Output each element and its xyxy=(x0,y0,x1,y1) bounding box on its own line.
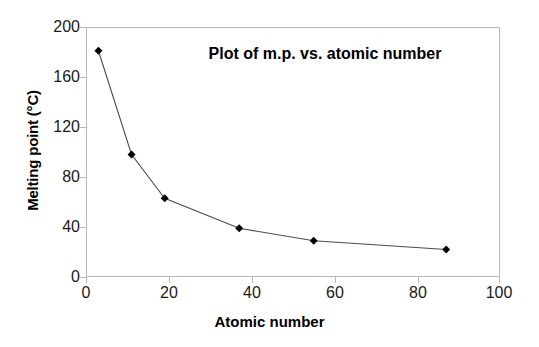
x-tick-label-80: 80 xyxy=(388,285,448,301)
x-axis-tick-labels: 0 20 40 60 80 100 xyxy=(0,285,539,309)
y-tick-label-200: 200 xyxy=(34,19,80,35)
x-tick-mark-20 xyxy=(169,277,170,283)
y-tick-mark-120 xyxy=(80,127,86,128)
x-tick-label-20: 20 xyxy=(139,285,199,301)
y-tick-mark-80 xyxy=(80,177,86,178)
y-tick-mark-200 xyxy=(80,27,86,28)
y-tick-mark-40 xyxy=(80,227,86,228)
y-tick-label-160: 160 xyxy=(34,69,80,85)
y-tick-label-80: 80 xyxy=(34,169,80,185)
x-tick-label-0: 0 xyxy=(56,285,116,301)
y-tick-label-120: 120 xyxy=(34,119,80,135)
x-tick-mark-40 xyxy=(252,277,253,283)
x-axis-title: Atomic number xyxy=(0,313,539,330)
y-tick-label-40: 40 xyxy=(34,219,80,235)
x-tick-label-60: 60 xyxy=(305,285,365,301)
chart-container: 200 160 120 80 40 0 0 20 40 60 80 100 Me… xyxy=(0,0,539,347)
plot-area xyxy=(86,27,500,277)
x-tick-label-40: 40 xyxy=(222,285,282,301)
x-tick-label-100: 100 xyxy=(469,285,529,301)
x-tick-mark-0 xyxy=(86,277,87,283)
y-tick-mark-160 xyxy=(80,77,86,78)
chart-title: Plot of m.p. vs. atomic number xyxy=(150,45,500,63)
x-tick-mark-80 xyxy=(418,277,419,283)
x-tick-mark-100 xyxy=(499,277,500,283)
x-tick-mark-60 xyxy=(335,277,336,283)
y-axis-title: Melting point (°C) xyxy=(24,51,41,251)
y-tick-label-0: 0 xyxy=(34,269,80,285)
